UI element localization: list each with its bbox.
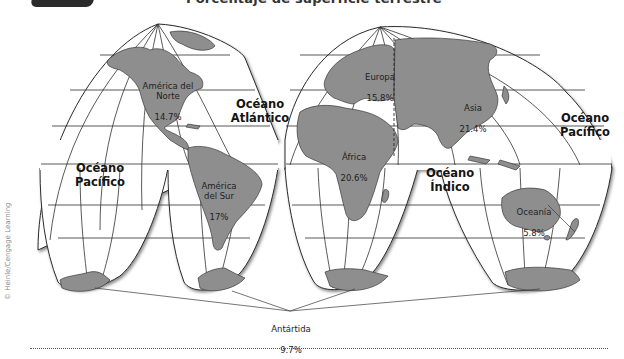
divider: [30, 348, 608, 349]
label-ocean-pacific-west: Océano Pacífico: [70, 161, 130, 189]
continent-name: América del Sur: [201, 181, 236, 202]
continent-name: Antártida: [271, 324, 311, 334]
continent-percent: 17%: [210, 212, 229, 222]
label-europe: Europa 15.8%: [362, 61, 398, 103]
landmass-antarctica-4: [505, 267, 580, 291]
continent-percent: 9.7%: [280, 345, 302, 355]
label-south-america: América del Sur 17%: [199, 170, 239, 223]
landmass-antarctica-3: [325, 269, 388, 291]
label-ocean-pacific-east: Océano Pacífico: [553, 111, 617, 139]
continent-name: África: [342, 152, 366, 162]
continent-name: Oceanía: [517, 207, 552, 217]
label-oceania: Oceanía 5.8%: [514, 196, 554, 238]
continent-percent: 14.7%: [154, 112, 181, 122]
continent-name: América del Norte: [143, 81, 194, 102]
label-ocean-indian: Océano Índico: [420, 166, 480, 194]
antarctica-leaders: [95, 288, 540, 311]
label-africa: África 20.6%: [336, 141, 372, 183]
continent-name: Asia: [464, 103, 482, 113]
continent-percent: 5.8%: [523, 228, 545, 238]
label-ocean-atlantic: Océano Atlántico: [228, 97, 292, 125]
continent-percent: 21.4%: [459, 124, 486, 134]
label-north-america: América del Norte 14.7%: [138, 70, 198, 123]
continent-percent: 20.6%: [340, 173, 367, 183]
image-credit: © Heinle/Cengage Learning: [4, 202, 12, 300]
continent-percent: 15.8%: [366, 93, 393, 103]
continent-name: Europa: [365, 72, 395, 82]
label-asia: Asia 21.4%: [455, 92, 491, 134]
